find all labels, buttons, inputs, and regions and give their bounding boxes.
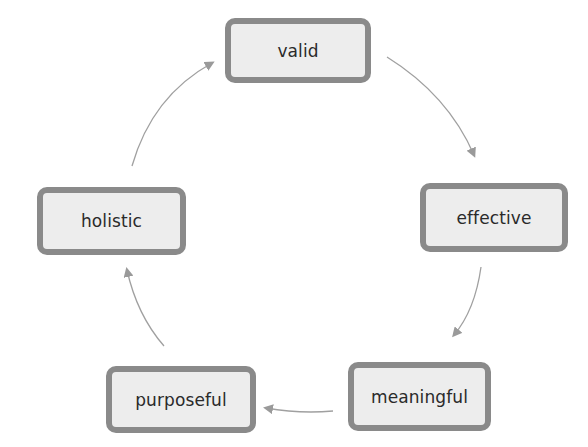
arrow-purposeful-to-holistic bbox=[127, 270, 164, 346]
node-holistic: holistic bbox=[37, 187, 186, 255]
arrow-valid-to-effective bbox=[387, 57, 474, 155]
arrow-holistic-to-valid bbox=[132, 63, 212, 166]
node-valid-label: valid bbox=[277, 41, 318, 61]
node-purposeful-label: purposeful bbox=[135, 390, 227, 410]
node-effective-label: effective bbox=[456, 208, 531, 228]
arrow-effective-to-meaningful bbox=[454, 267, 481, 335]
node-purposeful: purposeful bbox=[106, 366, 256, 433]
node-effective: effective bbox=[420, 183, 568, 252]
node-meaningful: meaningful bbox=[348, 362, 491, 431]
node-meaningful-label: meaningful bbox=[371, 387, 468, 407]
arrow-meaningful-to-purposeful bbox=[266, 408, 333, 412]
node-holistic-label: holistic bbox=[81, 211, 142, 231]
node-valid: valid bbox=[225, 18, 371, 83]
